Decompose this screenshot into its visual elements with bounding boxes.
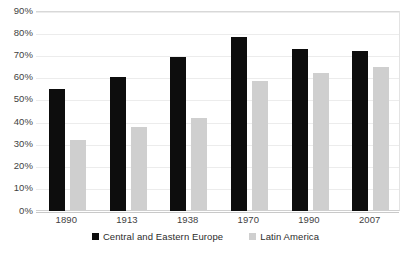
bar-cee-2007 bbox=[352, 51, 368, 211]
bar-group bbox=[339, 11, 400, 211]
legend-swatch-icon bbox=[92, 233, 99, 240]
legend-label: Central and Eastern Europe bbox=[103, 231, 223, 242]
bar-cee-1890 bbox=[49, 89, 65, 211]
y-tick-label: 90% bbox=[1, 6, 33, 16]
y-tick-label: 60% bbox=[1, 72, 33, 82]
legend-entry-cee[interactable]: Central and Eastern Europe bbox=[92, 231, 223, 242]
bar-group bbox=[218, 11, 279, 211]
bar-group bbox=[279, 11, 340, 211]
legend-entry-latin-america[interactable]: Latin America bbox=[249, 231, 319, 242]
x-tick-label-1990: 1990 bbox=[278, 213, 340, 226]
bar-group bbox=[97, 11, 158, 211]
chart-legend: Central and Eastern EuropeLatin America bbox=[0, 231, 411, 242]
y-tick-label: 70% bbox=[1, 50, 33, 60]
x-tick-label-1938: 1938 bbox=[157, 213, 219, 226]
bar-latin-america-2007 bbox=[373, 67, 389, 211]
y-tick-label: 40% bbox=[1, 117, 33, 127]
legend-swatch-icon bbox=[249, 233, 256, 240]
bar-latin-america-1913 bbox=[131, 127, 147, 211]
bar-latin-america-1890 bbox=[70, 140, 86, 211]
bar-cee-1970 bbox=[231, 37, 247, 211]
x-tick-label-2007: 2007 bbox=[339, 213, 401, 226]
y-tick-label: 10% bbox=[1, 183, 33, 193]
y-axis: 0%10%20%30%40%50%60%70%80%90% bbox=[0, 11, 33, 211]
bar-group bbox=[36, 11, 97, 211]
bar-cee-1913 bbox=[110, 77, 126, 211]
bars-container bbox=[36, 11, 400, 211]
x-tick-label-1890: 1890 bbox=[35, 213, 97, 226]
y-tick-label: 20% bbox=[1, 161, 33, 171]
bar-group bbox=[157, 11, 218, 211]
x-tick-label-1913: 1913 bbox=[96, 213, 158, 226]
legend-label: Latin America bbox=[260, 231, 319, 242]
bar-latin-america-1938 bbox=[191, 118, 207, 211]
y-tick-label: 0% bbox=[1, 206, 33, 216]
y-tick-label: 50% bbox=[1, 94, 33, 104]
bar-cee-1938 bbox=[170, 57, 186, 211]
x-axis: 189019131938197019902007 bbox=[36, 213, 400, 227]
bar-chart-figure: 0%10%20%30%40%50%60%70%80%90% 1890191319… bbox=[0, 0, 411, 256]
y-tick-label: 30% bbox=[1, 139, 33, 149]
x-tick-label-1970: 1970 bbox=[217, 213, 279, 226]
bar-latin-america-1990 bbox=[313, 73, 329, 211]
y-tick-label: 80% bbox=[1, 28, 33, 38]
bar-latin-america-1970 bbox=[252, 81, 268, 211]
bar-cee-1990 bbox=[292, 49, 308, 211]
